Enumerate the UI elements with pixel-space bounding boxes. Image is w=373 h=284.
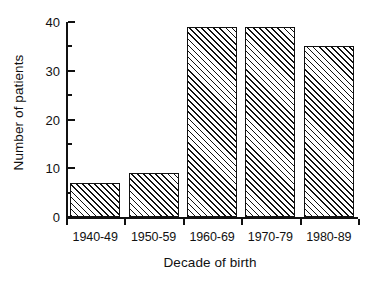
plot-area: 010203040 1940-491950-591960-691970-7919…	[66, 22, 358, 218]
x-tick	[124, 219, 126, 225]
bar-chart-figure: Number of patients 010203040 1940-491950…	[0, 0, 373, 284]
scan-artifact	[0, 274, 373, 284]
x-tick	[183, 219, 185, 225]
y-tick-major	[68, 119, 75, 121]
x-tick	[358, 219, 360, 225]
y-tick-minor	[68, 45, 72, 47]
x-tick-label: 1980-89	[289, 230, 369, 244]
bar	[304, 46, 354, 217]
y-tick-label: 40	[18, 16, 60, 29]
y-tick-label: 30	[18, 64, 60, 77]
bar	[245, 27, 295, 217]
y-tick-label: 20	[18, 113, 60, 126]
x-axis-title: Decade of birth	[60, 255, 360, 270]
bar	[129, 173, 179, 217]
bar	[70, 183, 120, 217]
x-tick	[66, 219, 68, 225]
y-tick-label: 10	[18, 162, 60, 175]
y-tick-minor	[68, 94, 72, 96]
y-tick-label: 0	[18, 211, 60, 224]
x-tick	[300, 219, 302, 225]
y-tick-major	[68, 21, 75, 23]
x-axis-line	[66, 217, 358, 219]
y-axis-line	[66, 22, 68, 219]
bar	[187, 27, 237, 217]
x-tick	[241, 219, 243, 225]
y-tick-major	[68, 167, 75, 169]
y-tick-minor	[68, 143, 72, 145]
y-tick-major	[68, 70, 75, 72]
